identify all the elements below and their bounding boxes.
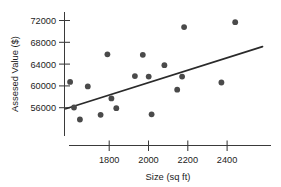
- data-point: [105, 51, 111, 57]
- data-point: [149, 111, 155, 117]
- data-point: [174, 87, 180, 93]
- scatter-chart: 72000 68000 64000 60000 56000 1800 2000 …: [0, 0, 281, 187]
- data-point: [67, 79, 73, 85]
- data-point: [181, 24, 187, 30]
- data-points-group: [67, 19, 238, 122]
- y-tick-label: 72000: [30, 16, 56, 26]
- chart-canvas: 72000 68000 64000 60000 56000 1800 2000 …: [0, 0, 281, 187]
- data-point: [219, 80, 225, 86]
- data-point: [140, 52, 146, 58]
- x-axis-tick-labels: 1800 2000 2200 2400: [99, 155, 237, 165]
- data-point: [77, 117, 83, 123]
- data-point: [146, 74, 152, 80]
- x-tick-label: 2400: [217, 155, 237, 165]
- y-axis-tick-labels: 72000 68000 64000 60000 56000: [30, 16, 56, 113]
- data-point: [113, 105, 119, 111]
- y-tick-label: 60000: [30, 81, 56, 91]
- x-tick-label: 2000: [138, 155, 158, 165]
- data-point: [132, 73, 138, 79]
- y-tick-label: 68000: [30, 38, 56, 48]
- data-point: [85, 84, 91, 90]
- y-tick-label: 64000: [30, 60, 56, 70]
- data-point: [71, 105, 77, 111]
- x-tick-label: 2200: [178, 155, 198, 165]
- y-tick-label: 56000: [30, 103, 56, 113]
- data-point: [109, 96, 115, 102]
- data-point: [179, 74, 185, 80]
- x-axis-title: Size (sq ft): [146, 171, 191, 182]
- data-point: [98, 112, 104, 118]
- data-point: [162, 62, 168, 68]
- data-point: [232, 19, 238, 25]
- trend-line: [66, 47, 263, 109]
- y-axis-title: Assesed Value ($): [9, 36, 20, 112]
- x-tick-label: 1800: [99, 155, 119, 165]
